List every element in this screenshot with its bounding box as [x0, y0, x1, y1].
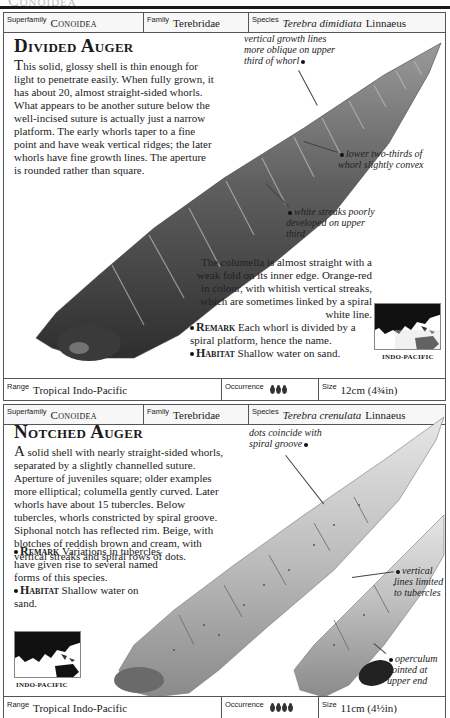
- occurrence-cell: Occurrence: [222, 379, 319, 400]
- occurrence-icons: [270, 387, 287, 394]
- occurrence-icons: [270, 705, 293, 712]
- map-caption: INDO-PACIFIC: [16, 681, 68, 689]
- entry-remark: Remark Variations in tubercles have give…: [14, 545, 169, 584]
- occurrence-icon: [276, 705, 281, 712]
- occurrence-icon: [282, 705, 287, 712]
- range-cell: Range Tropical Indo-Pacific: [4, 697, 222, 718]
- distribution-map: [14, 631, 81, 678]
- annotation-vertical-lines: vertical lines limited to tubercles: [394, 565, 446, 598]
- size-value: 12cm (4¾in): [341, 384, 398, 396]
- footer-row: Range Tropical Indo-Pacific Occurrence S…: [4, 378, 445, 400]
- occurrence-icon: [270, 705, 275, 712]
- range-label: Range: [7, 700, 29, 709]
- size-value: 11cm (4½in): [341, 702, 397, 714]
- size-label: Size: [322, 700, 337, 709]
- distribution-map: [374, 303, 441, 350]
- range-value: Tropical Indo-Pacific: [33, 384, 127, 396]
- annotation-operculum: operculum pointed at upper end: [387, 653, 446, 686]
- footer-row: Range Tropical Indo-Pacific Occurrence S…: [4, 696, 445, 718]
- entry-notched-auger: Superfamily Conoidea Family Terebridae S…: [3, 404, 446, 718]
- entry-divided-auger: Superfamily Conoidea Family Terebridae S…: [3, 12, 446, 401]
- map-caption: INDO-PACIFIC: [382, 353, 434, 361]
- occurrence-label: Occurrence: [225, 700, 264, 709]
- occurrence-label: Occurrence: [225, 382, 264, 391]
- entry-description-2: The columella is almost straight with a …: [187, 256, 372, 321]
- entry-habitat: Habitat Shallow water on sand.: [190, 347, 370, 360]
- occurrence-icon: [282, 387, 287, 394]
- annotation-white-streaks: white streaks poorly developed on upper …: [286, 206, 376, 239]
- range-label: Range: [7, 382, 29, 391]
- annotation-lower-whorl: lower two-thirds of whorl slightly conve…: [338, 148, 438, 170]
- entry-habitat: Habitat Shallow water on sand.: [14, 584, 164, 610]
- occurrence-icon: [276, 387, 281, 394]
- occurrence-icon: [288, 705, 293, 712]
- entry-description: This solid, glossy shell is thin enough …: [14, 59, 214, 177]
- occurrence-cell: Occurrence: [222, 697, 319, 718]
- size-cell: Size 12cm (4¾in): [319, 379, 445, 400]
- annotation-dots: dots coincide with spiral groove: [249, 427, 329, 449]
- entry-title: Notched Auger: [14, 421, 143, 443]
- range-cell: Range Tropical Indo-Pacific: [4, 379, 222, 400]
- occurrence-icon: [270, 387, 275, 394]
- description-dropcap: T: [14, 57, 23, 73]
- range-value: Tropical Indo-Pacific: [33, 702, 127, 714]
- size-cell: Size 11cm (4½in): [319, 697, 445, 718]
- size-label: Size: [322, 382, 337, 391]
- page-header-rule: [0, 6, 450, 9]
- annotation-growth-lines: vertical growth lines more oblique on up…: [244, 33, 344, 66]
- entry-title: Divided Auger: [14, 35, 134, 57]
- entry-remark: Remark Each whorl is divided by a spiral…: [190, 321, 370, 347]
- description-dropcap: A: [14, 443, 25, 459]
- description-text: his solid, glossy shell is thin enough f…: [14, 60, 214, 176]
